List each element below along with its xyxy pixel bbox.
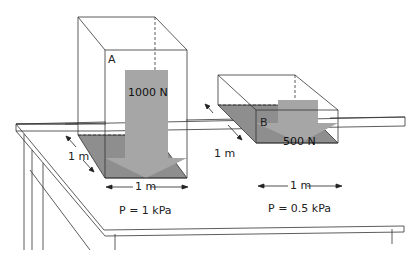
box-a-width: 1 m — [135, 180, 156, 193]
box-b-force: 500 N — [283, 135, 316, 148]
box-a-depth: 1 m — [68, 150, 89, 163]
box-a-force: 1000 N — [128, 86, 168, 99]
pressure-diagram — [0, 0, 416, 263]
box-a-label: A — [108, 53, 116, 66]
box-a-pressure: P = 1 kPa — [119, 204, 172, 217]
box-b-depth: 1 m — [214, 147, 235, 160]
box-b — [218, 75, 338, 143]
table — [16, 117, 405, 250]
box-b-width: 1 m — [290, 179, 311, 192]
box-b-label: B — [260, 116, 268, 129]
box-b-pressure: P = 0.5 kPa — [268, 202, 331, 215]
